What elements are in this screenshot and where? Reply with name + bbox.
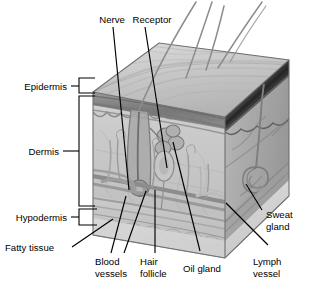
label-sweat-gland-line-1: Sweat (266, 209, 293, 220)
label-sweat-gland: Sweat gland (266, 209, 293, 232)
label-oil-gland: Oil gland (183, 263, 221, 274)
label-lymph-vessel: Lymph vessel (253, 256, 281, 279)
label-blood-vessels-line-2: vessels (95, 268, 127, 279)
label-nerve: Nerve (99, 14, 125, 25)
label-hair-follicle-line-1: Hair (140, 256, 158, 267)
label-blood-vessels: Blood vessels (95, 256, 127, 279)
skin-block (93, 2, 289, 258)
layer-brackets (63, 78, 97, 225)
label-lymph-vessel-line-1: Lymph (253, 256, 281, 267)
skin-diagram-illustration: Epidermis Dermis Hypodermis Fatty tissue… (0, 0, 322, 289)
label-hair-follicle: Hair follicle (140, 256, 167, 279)
label-dermis: Dermis (29, 146, 60, 157)
label-sweat-gland-line-2: gland (266, 221, 289, 232)
label-epidermis: Epidermis (24, 81, 67, 92)
label-hair-follicle-line-2: follicle (140, 268, 167, 279)
skin-cross-section-diagram: Epidermis Dermis Hypodermis Fatty tissue… (0, 0, 322, 289)
label-receptor: Receptor (133, 14, 173, 25)
label-fatty-tissue: Fatty tissue (5, 242, 54, 253)
label-hypodermis: Hypodermis (16, 212, 67, 223)
label-blood-vessels-line-1: Blood (95, 256, 120, 267)
label-lymph-vessel-line-2: vessel (253, 268, 280, 279)
bracket-epidermis (79, 78, 95, 93)
